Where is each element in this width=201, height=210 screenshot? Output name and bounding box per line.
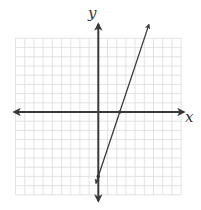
y-axis-label: y xyxy=(88,6,96,21)
coordinate-plane xyxy=(0,0,201,210)
intercept-point xyxy=(118,110,122,114)
x-axis-label: x xyxy=(185,110,193,125)
plotted-line xyxy=(96,25,149,184)
intercept-point xyxy=(97,175,101,179)
